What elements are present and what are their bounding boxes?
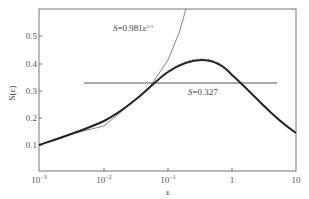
plot-frame [39,9,296,171]
x-tick-labels: 10−3 10−2 10−1 1 10 [31,174,301,185]
series-main-curve [39,60,296,145]
x-tick-label: 10 [292,175,302,185]
annotation-power-law: S=0.981ε1/3 [113,23,153,33]
y-tick-label: 0.1 [26,140,37,150]
x-tick-label: 1 [230,175,235,185]
y-tick-label: 0.5 [26,31,38,41]
x-axis-label: ε [166,187,170,197]
chart: 0.1 0.2 0.3 0.4 0.5 10−3 10−2 10−1 1 10 … [0,0,309,199]
y-tick-label: 0.2 [26,113,37,123]
annotation-constant: S=0.327 [188,87,218,97]
x-tick-label: 10−1 [160,174,175,185]
y-axis-label: S(ε) [7,86,17,101]
y-tick-label: 0.3 [26,86,38,96]
x-tick-label: 10−3 [31,174,46,185]
x-tick-label: 10−2 [96,174,111,185]
y-tick-labels: 0.1 0.2 0.3 0.4 0.5 [26,31,38,150]
y-tick-label: 0.4 [26,59,38,69]
